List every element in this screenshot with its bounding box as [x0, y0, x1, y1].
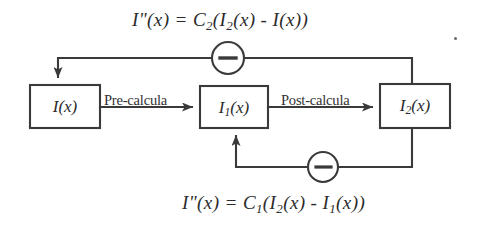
block-label-i: I(x) [30, 97, 100, 117]
edge-label-pre-calcula: Pre-calcula [104, 92, 167, 109]
scan-speck [454, 37, 457, 40]
connector-inner-feedback-left [236, 136, 308, 167]
connector-outer-feedback-right [244, 58, 412, 84]
equation-outer-loop: I"(x) = C2(I2(x) - I(x)) [132, 9, 308, 34]
edge-label-post-calcula: Post-calcula [281, 92, 349, 109]
block-diagram: I"(x) = C2(I2(x) - I(x)) I"(x) = C1(I2(x… [0, 0, 488, 233]
equation-inner-loop: I"(x) = C1(I2(x) - I1(x)) [182, 192, 365, 217]
connector-outer-feedback-left [58, 58, 212, 77]
connector-inner-feedback-right [338, 128, 412, 167]
block-label-i1: I1(x) [200, 98, 268, 119]
block-label-i2: I2(x) [380, 96, 450, 117]
